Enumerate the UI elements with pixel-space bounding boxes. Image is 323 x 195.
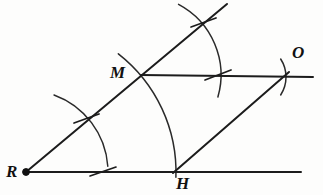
- line-M-through-O: [141, 75, 313, 77]
- point-label-R: R: [6, 163, 17, 180]
- diagram-canvas: [0, 0, 323, 195]
- point-label-O: O: [292, 44, 304, 61]
- segment-H-to-O: [173, 72, 289, 173]
- arc-large-at-R-icon: [118, 54, 176, 177]
- point-label-H: H: [176, 175, 189, 192]
- vertex-dot-R: [23, 169, 30, 176]
- ray-R-through-M: [26, 4, 227, 172]
- arc-small-at-R-icon: [54, 95, 108, 166]
- geometry-diagram: R M H O: [0, 0, 323, 195]
- point-label-M: M: [110, 64, 125, 81]
